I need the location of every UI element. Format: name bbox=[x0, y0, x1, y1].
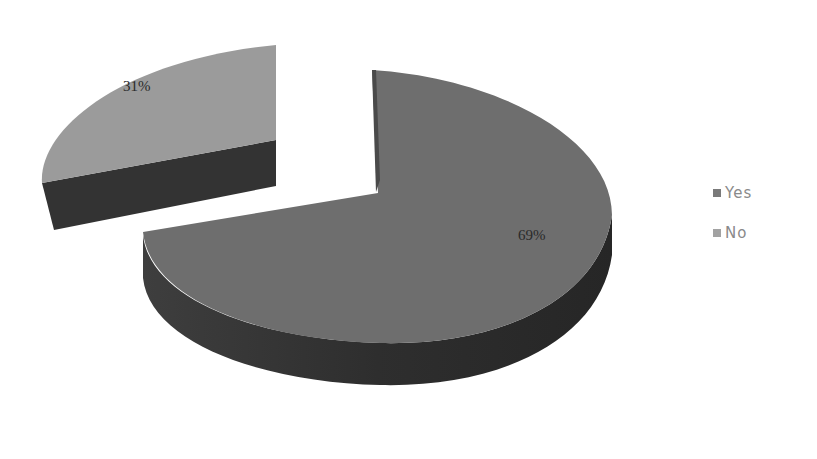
legend-swatch-no bbox=[713, 229, 721, 237]
data-label-yes: 69% bbox=[518, 227, 546, 244]
pie-slice-no bbox=[42, 45, 276, 230]
pie-chart: 31% 69% Yes No bbox=[0, 0, 817, 459]
legend: Yes No bbox=[713, 183, 752, 263]
legend-item-no: No bbox=[713, 223, 752, 243]
legend-label-yes: Yes bbox=[725, 184, 752, 202]
legend-item-yes: Yes bbox=[713, 183, 752, 203]
legend-label-no: No bbox=[725, 224, 747, 242]
data-label-no: 31% bbox=[123, 78, 151, 95]
legend-swatch-yes bbox=[713, 189, 721, 197]
pie-chart-svg bbox=[0, 0, 817, 459]
